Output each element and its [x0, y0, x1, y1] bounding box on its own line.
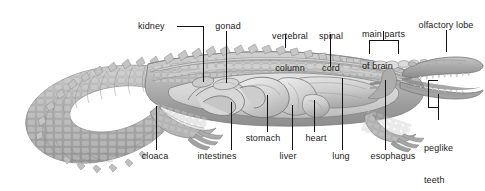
leader-kidney-horizontal	[177, 26, 203, 27]
leader-peglike-teeth-top	[428, 80, 438, 81]
label-cloaca: cloaca	[142, 151, 169, 162]
leader-peglike-teeth-bottom	[428, 107, 438, 108]
label-intestines: intestines	[197, 151, 236, 162]
leader-gonad	[226, 31, 227, 83]
label-kidney: kidney	[138, 21, 165, 32]
label-vertebral-column-line2: column	[272, 63, 308, 74]
label-stomach: stomach	[246, 133, 281, 144]
label-peglike-teeth-line1: peglike	[424, 143, 453, 154]
crocodile-illustration	[0, 0, 485, 191]
leader-heart	[314, 100, 315, 132]
label-brain-line2: of brain	[362, 61, 405, 72]
label-liver: liver	[279, 151, 296, 162]
label-spinal-cord-line1: spinal	[319, 31, 343, 42]
label-spinal-cord: spinal cord	[319, 10, 343, 94]
label-peglike-teeth-line2: teeth	[424, 175, 453, 186]
leader-cloaca	[156, 106, 157, 150]
label-vertebral-column: vertebral column	[272, 10, 308, 94]
label-main-parts-of-brain: main parts of brain	[362, 8, 405, 92]
label-olfactory-lobe: olfactory lobe	[419, 20, 474, 31]
label-lung: lung	[332, 151, 349, 162]
leader-peglike-teeth-bracket	[428, 80, 429, 108]
anatomy-figure: kidney gonad vertebral column spinal cor…	[0, 0, 485, 191]
label-peglike-teeth: peglike teeth	[424, 122, 453, 191]
leader-olfactory-lobe	[446, 30, 447, 52]
label-brain-line1: main parts	[362, 29, 405, 40]
label-heart: heart	[305, 133, 326, 144]
label-spinal-cord-line2: cord	[319, 63, 343, 74]
label-esophagus: esophagus	[371, 151, 416, 162]
leader-liver	[292, 105, 293, 150]
leader-intestines	[231, 102, 232, 150]
leader-peglike-teeth-stem	[438, 94, 439, 120]
leader-kidney-vertical	[203, 26, 204, 82]
leader-stomach	[267, 95, 268, 132]
label-gonad: gonad	[215, 21, 241, 32]
label-vertebral-column-line1: vertebral	[272, 31, 308, 42]
